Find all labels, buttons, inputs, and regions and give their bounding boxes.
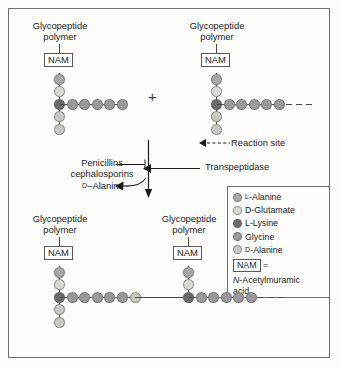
legend-text: -Alanine xyxy=(250,245,282,255)
bottom-left-nam-box: NAM xyxy=(44,246,73,260)
bottom-right-horizontal-residue-0 xyxy=(196,292,207,303)
bottom-left-horizontal-residue-2 xyxy=(92,292,103,303)
legend-label-glycine: Glycine xyxy=(245,232,274,242)
legend-box: L-AlanineD-GlutamateL-LysineGlycineD-Ala… xyxy=(227,186,330,298)
top-left-vertical-residue-0 xyxy=(54,74,65,85)
legend-label-d-alanine: D-Alanine xyxy=(245,245,283,255)
top-right-stem-upper xyxy=(216,44,217,53)
top-left-horizontal-residue-1 xyxy=(79,99,90,110)
top-right-vertical-residue-0 xyxy=(211,74,222,85)
bottom-left-vertical-residue-4 xyxy=(54,317,65,328)
legend-swatch-d-alanine xyxy=(233,245,242,254)
bottom-right-nam-box: NAM xyxy=(173,246,202,260)
plus-symbol: + xyxy=(148,89,157,104)
bottom-left-horizontal-residue-0 xyxy=(67,292,78,303)
transpeptidase-label: Transpeptidase xyxy=(205,162,269,173)
bottom-crosslink-line xyxy=(135,297,188,298)
legend-label-l-lysine: L-Lysine xyxy=(245,218,278,228)
bottom-left-horizontal-residue-1 xyxy=(79,292,90,303)
bottom-left-vertical-residue-0 xyxy=(54,267,65,278)
bottom-right-trailing-dash-2 xyxy=(278,297,284,298)
bottom-right-vertical-residue-0 xyxy=(183,267,194,278)
top-right-trailing-dash-0 xyxy=(286,104,292,105)
legend-label-l-alanine: L-Alanine xyxy=(245,192,281,202)
top-left-horizontal-residue-4 xyxy=(117,99,128,110)
top-left-header-line1: Glycopeptide xyxy=(8,21,112,32)
legend-nam-row: NAM = xyxy=(233,260,268,270)
top-left-stem-upper xyxy=(59,44,60,53)
d-alanine-text: –Alanine xyxy=(87,180,124,191)
bottom-right-horizontal-residue-1 xyxy=(208,292,219,303)
bottom-left-horizontal-residue-4 xyxy=(117,292,128,303)
top-right-header-line1: Glycopeptide xyxy=(165,21,269,32)
legend-nam-definition-line1: N-Acetylmuramic xyxy=(233,275,300,285)
top-right-trailing-dash-2 xyxy=(306,104,312,105)
bottom-right-horizontal-residue-2 xyxy=(221,292,232,303)
bottom-right-trailing-dash-0 xyxy=(258,297,264,298)
bottom-left-header-line1: Glycopeptide xyxy=(8,214,112,225)
top-right-horizontal-residue-1 xyxy=(236,99,247,110)
top-right-vertical-residue-4 xyxy=(211,124,222,135)
bottom-right-trailing-dash-1 xyxy=(268,297,274,298)
d-alanine-released-circle xyxy=(70,181,79,190)
bottom-right-header-line1: Glycopeptide xyxy=(137,214,241,225)
d-alanine-released-label: D–Alanine xyxy=(82,181,124,192)
bottom-left-stem-upper xyxy=(59,237,60,246)
diagram-canvas: Glycopeptide polymer NAM + Glycopeptide … xyxy=(0,0,340,368)
top-right-horizontal-residue-4 xyxy=(274,99,285,110)
top-left-horizontal-residue-0 xyxy=(67,99,78,110)
legend-text: -Alanine xyxy=(249,192,281,202)
legend-label-d-glutamate: D-Glutamate xyxy=(245,205,295,215)
legend-nam-definition-text: -Acetylmuramic xyxy=(239,275,300,285)
reaction-site-arrow xyxy=(195,136,235,152)
top-right-horizontal-residue-0 xyxy=(224,99,235,110)
top-right-nam-box: NAM xyxy=(201,53,230,67)
legend-nam-equals: = xyxy=(261,260,269,270)
top-left-header-line2: polymer xyxy=(8,32,112,43)
top-left-horizontal-residue-2 xyxy=(92,99,103,110)
top-right-trailing-dash-1 xyxy=(296,104,302,105)
reaction-site-label: Reaction site xyxy=(231,138,285,149)
bottom-left-header-line2: polymer xyxy=(8,225,112,236)
top-left-nam-box: NAM xyxy=(44,53,73,67)
top-left-vertical-residue-4 xyxy=(54,124,65,135)
top-right-horizontal-residue-2 xyxy=(249,99,260,110)
bottom-right-stem-upper xyxy=(188,237,189,246)
top-right-header-line2: polymer xyxy=(165,32,269,43)
legend-nam-box: NAM xyxy=(233,259,261,272)
legend-swatch-l-alanine xyxy=(233,193,242,202)
bottom-right-horizontal-residue-4 xyxy=(246,292,257,303)
bottom-right-header-line2: polymer xyxy=(137,225,241,236)
